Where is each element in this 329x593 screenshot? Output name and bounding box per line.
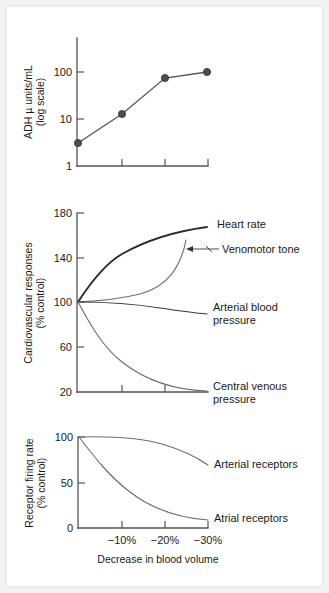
rx-ytick-label-50: 50 [61, 477, 73, 489]
receptor-chart: 100 50 0 Receptor firing rate (% control… [0, 0, 329, 593]
rx-xtick-label-30: −30% [194, 534, 223, 546]
rx-xtick-label-10: −10% [108, 534, 137, 546]
figure-container: 100 10 1 ADH µ units/mL (log scale) 180 … [0, 0, 329, 593]
rx-label-arterial-receptors: Arterial receptors [214, 458, 298, 470]
rx-ytick-label-100: 100 [55, 431, 73, 443]
rx-y-axis-title-line2: (% control) [35, 458, 47, 509]
rx-xtick-label-20: −20% [151, 534, 180, 546]
rx-label-atrial-receptors: Atrial receptors [214, 512, 288, 524]
x-axis-title: Decrease in blood volume [97, 553, 219, 565]
rx-curve-atrial-receptors [79, 437, 208, 520]
rx-ytick-label-0: 0 [67, 522, 73, 534]
rx-y-axis-title-line1: Receptor firing rate [23, 438, 35, 527]
